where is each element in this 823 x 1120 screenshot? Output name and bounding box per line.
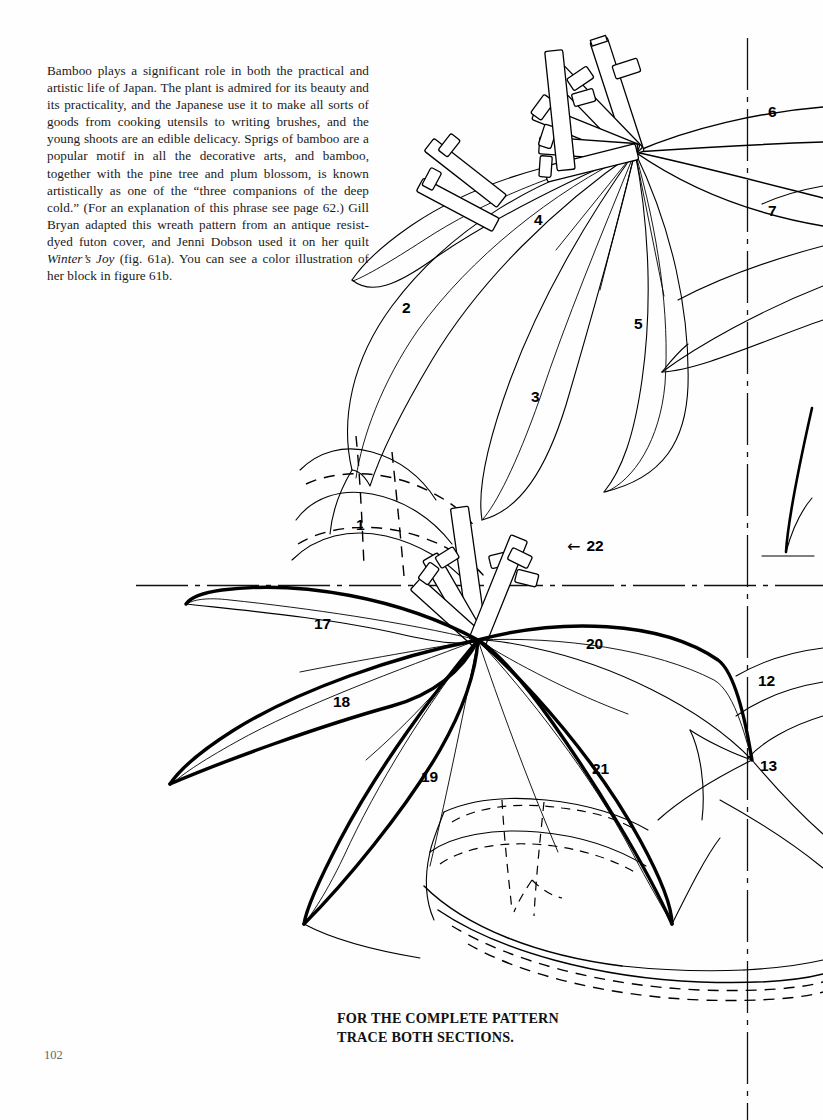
callout-21: 21: [592, 761, 609, 777]
callout-5: 5: [634, 316, 643, 332]
callout-20-label: 20: [586, 635, 603, 652]
callout-5-label: 5: [634, 315, 643, 332]
callout-22: ←22: [567, 538, 604, 555]
callout-7: 7: [768, 203, 777, 219]
callout-1: 1: [356, 517, 365, 533]
callout-1-label: 1: [356, 516, 365, 533]
callout-18: 18: [333, 694, 350, 710]
callout-2-label: 2: [402, 299, 411, 316]
callout-6-label: 6: [768, 103, 777, 120]
callout-17: 17: [314, 616, 331, 632]
callout-7-label: 7: [768, 202, 777, 219]
bamboo-culms-lower: [410, 506, 539, 647]
upper-leaf-cluster: [348, 107, 823, 556]
page-number: 102: [44, 1048, 63, 1063]
callout-19: 19: [421, 769, 438, 785]
wreath-lower-left-edge: [304, 924, 420, 958]
caption-line-2: TRACE BOTH SECTIONS.: [337, 1028, 667, 1047]
callout-4-label: 4: [534, 211, 543, 228]
lower-sheath-band: [424, 799, 823, 1001]
lower-leaf-cluster: [170, 587, 823, 924]
callout-3-label: 3: [531, 388, 540, 405]
caption-line-1: FOR THE COMPLETE PATTERN: [337, 1009, 667, 1028]
leaf-1-sheath: [292, 436, 484, 582]
pattern-caption: FOR THE COMPLETE PATTERN TRACE BOTH SECT…: [337, 1009, 667, 1046]
body-paragraph: Bamboo plays a significant role in both …: [47, 62, 369, 284]
callout-12-label: 12: [758, 672, 775, 689]
callout-22-label: 22: [586, 537, 603, 554]
callout-13: 13: [760, 758, 777, 774]
callout-6: 6: [768, 104, 777, 120]
book-page: .ln { fill:none; stroke:#000; stroke-wid…: [0, 0, 823, 1120]
callout-18-label: 18: [333, 693, 350, 710]
bamboo-culms-upper: [416, 35, 644, 231]
callout-21-label: 21: [592, 760, 609, 777]
callout-2: 2: [402, 300, 411, 316]
callout-4: 4: [534, 212, 543, 228]
left-arrow-icon: ←: [567, 537, 580, 556]
callout-19-label: 19: [421, 768, 438, 785]
callout-20: 20: [586, 636, 603, 652]
callout-12: 12: [758, 673, 775, 689]
callout-13-label: 13: [760, 757, 777, 774]
callout-17-label: 17: [314, 615, 331, 632]
body-paragraph-head: Bamboo plays a significant role in both …: [47, 63, 369, 249]
quilt-title-italic: Winter’s Joy: [47, 251, 114, 266]
callout-3: 3: [531, 389, 540, 405]
